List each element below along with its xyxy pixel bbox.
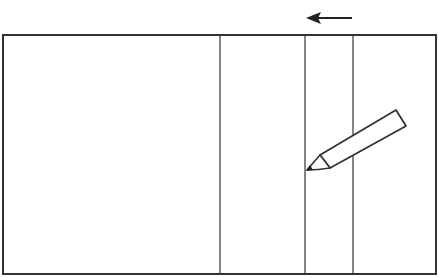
pencil-icon xyxy=(306,110,406,171)
left-arrow-icon xyxy=(306,12,352,24)
diagram-canvas xyxy=(0,0,439,278)
